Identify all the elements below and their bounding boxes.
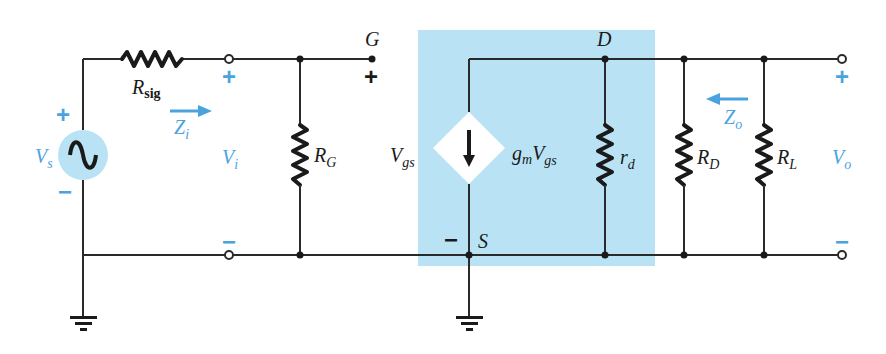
input-terminal-top [225, 55, 233, 63]
ac-voltage-source [58, 130, 108, 180]
vs-minus: − [58, 178, 72, 205]
source-label: S [478, 230, 488, 252]
rg-resistor [293, 125, 307, 185]
RL-resistor [757, 125, 771, 185]
vo-minus: − [835, 228, 849, 255]
vo-label: Vo [832, 146, 851, 172]
rg-label: RG [313, 144, 336, 170]
drain-node [602, 56, 609, 63]
vgs-plus: + [364, 63, 378, 90]
output-terminal-top [838, 55, 846, 63]
ground-icon [70, 316, 97, 331]
vo-plus: + [835, 63, 849, 90]
zo-label: Zo [724, 106, 742, 132]
gate-label: G [365, 28, 380, 50]
zo-arrow-icon [706, 93, 748, 105]
rsig-label: Rsig [131, 76, 161, 101]
RL-label: RL [776, 146, 797, 172]
zi-label: Zi [174, 116, 189, 142]
source-node [466, 252, 473, 259]
vs-plus: + [56, 101, 70, 128]
gate-terminal [369, 56, 376, 63]
drain-label: D [596, 28, 612, 50]
vs-label: Vs [35, 145, 53, 171]
vi-label: Vi [222, 146, 238, 172]
vi-plus: + [222, 63, 236, 90]
RD-resistor [677, 125, 691, 185]
rsig-resistor [122, 52, 182, 66]
ground-icon [456, 316, 483, 331]
vgs-minus: − [444, 226, 458, 253]
RD-label: RD [696, 146, 719, 172]
vgs-label: Vgs [390, 144, 415, 170]
circuit-diagram: + − Vs Rsig + − Zi Vi RG G + Vgs − S D g… [0, 0, 886, 354]
vi-minus: − [222, 228, 236, 255]
